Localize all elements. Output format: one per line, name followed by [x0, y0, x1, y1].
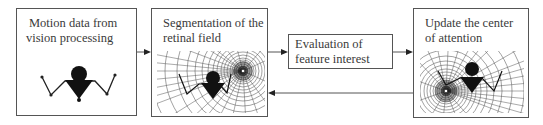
arrow-left-icon: [268, 90, 275, 96]
arrow-right-icon: [144, 49, 151, 55]
edges-layer: [0, 0, 543, 125]
arrow-right-icon: [406, 49, 413, 55]
arrow-right-icon: [281, 49, 288, 55]
